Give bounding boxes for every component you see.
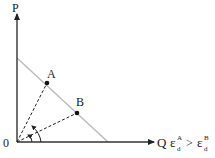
epsilon-b-sup: B	[204, 134, 209, 142]
q-axis-label: Q	[157, 135, 167, 150]
ray-to-a	[17, 83, 47, 142]
demand-line	[17, 58, 108, 142]
epsilon-a-sub: d	[177, 145, 181, 153]
angle-arrow-b	[28, 135, 32, 142]
greater-than: >	[186, 136, 193, 150]
epsilon-b: ε	[197, 135, 203, 150]
epsilon-b-sub: d	[204, 145, 208, 153]
epsilon-a: ε	[170, 135, 176, 150]
epsilon-a-sup: A	[177, 134, 182, 142]
p-axis-label: P	[12, 1, 19, 15]
point-a	[45, 81, 50, 86]
angle-arrow-a	[32, 126, 41, 142]
elasticity-relation: ε A d > ε B d	[170, 134, 209, 153]
point-a-label: A	[47, 67, 56, 81]
elasticity-diagram: P Q 0 A B ε A d > ε B d	[0, 0, 215, 158]
ray-to-b	[17, 113, 77, 142]
point-b	[75, 111, 80, 116]
point-b-label: B	[76, 95, 84, 109]
origin-label: 0	[3, 136, 9, 150]
